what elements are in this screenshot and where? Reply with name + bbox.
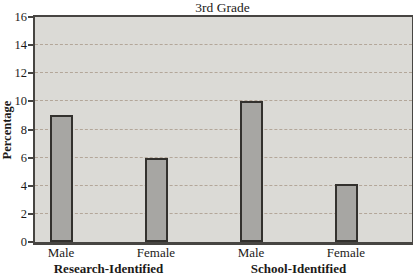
y-tick-label: 6 <box>0 151 27 165</box>
x-category-label: Male <box>21 246 101 260</box>
y-tick-label: 12 <box>0 66 27 80</box>
gridline <box>35 129 412 130</box>
y-tick-label: 16 <box>0 10 27 24</box>
x-group-label: School-Identified <box>209 261 389 276</box>
x-group-label: Research-Identified <box>19 261 199 276</box>
y-tick-label: 14 <box>0 38 27 52</box>
y-tick-mark <box>28 241 33 243</box>
gridline <box>35 157 412 158</box>
chart-title: 3rd Grade <box>33 0 412 15</box>
plot-area <box>33 15 413 245</box>
x-category-label: Female <box>116 246 196 260</box>
x-category-label: Male <box>211 246 291 260</box>
y-tick-mark <box>28 44 33 46</box>
y-tick-mark <box>28 157 33 159</box>
bar-female-school-identified <box>335 184 358 242</box>
y-tick-label: 8 <box>0 123 27 137</box>
x-category-label: Female <box>306 246 386 260</box>
y-tick-mark <box>28 72 33 74</box>
gridline <box>35 44 412 45</box>
y-tick-mark <box>28 16 33 18</box>
y-tick-mark <box>28 213 33 215</box>
bar-male-research-identified <box>50 115 73 242</box>
bar-female-research-identified <box>145 158 168 242</box>
gridline <box>35 100 412 101</box>
bar-male-school-identified <box>240 101 263 242</box>
y-tick-mark <box>28 100 33 102</box>
y-tick-label: 2 <box>0 207 27 221</box>
bar-chart: 3rd Grade Percentage 0246810121416 MaleF… <box>0 0 416 280</box>
y-tick-mark <box>28 185 33 187</box>
y-tick-mark <box>28 129 33 131</box>
y-tick-label: 10 <box>0 94 27 108</box>
y-tick-label: 4 <box>0 179 27 193</box>
gridline <box>35 72 412 73</box>
